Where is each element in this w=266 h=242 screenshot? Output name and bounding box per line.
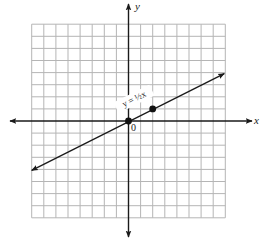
x-axis-label: x — [253, 114, 259, 126]
origin-label: 0 — [131, 122, 136, 133]
coordinate-plane: y = ½x x y 0 — [0, 0, 266, 242]
data-point — [149, 106, 156, 113]
equation-label: y = ½x — [120, 89, 148, 109]
y-axis-label: y — [134, 0, 140, 12]
